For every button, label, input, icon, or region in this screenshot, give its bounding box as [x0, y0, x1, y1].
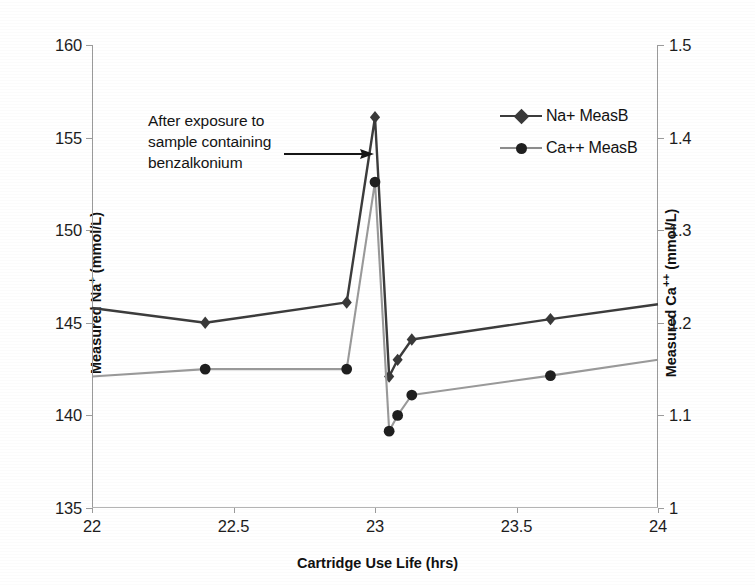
- y-axis-left-line: [92, 45, 93, 508]
- x-axis-title: Cartridge Use Life (hrs): [297, 555, 458, 571]
- y-tick-label-left: 155: [55, 128, 82, 147]
- x-tick: [234, 508, 235, 513]
- annotation-arrow-icon: [282, 144, 374, 164]
- circle-marker-icon: [516, 143, 527, 154]
- chart-figure: Measured Na+ (mmol/L) Measured Ca++ (mmo…: [0, 0, 755, 585]
- y-tick-label-right: 1.3: [669, 221, 691, 240]
- y-tick-label-left: 145: [55, 313, 82, 332]
- y-tick-right: [658, 323, 664, 324]
- legend: Na+ MeasB Ca++ MeasB: [500, 100, 675, 164]
- legend-label-ca: Ca++ MeasB: [546, 139, 637, 157]
- x-tick: [658, 508, 659, 513]
- y-tick-right: [658, 230, 664, 231]
- y-tick-label-right: 1.2: [669, 313, 691, 332]
- y-tick-label-right: 1.1: [669, 406, 691, 425]
- y-tick-label-left: 160: [55, 36, 82, 55]
- y-tick-left: [86, 45, 92, 46]
- y-tick-left: [86, 230, 92, 231]
- x-tick-label: 23.5: [501, 517, 532, 536]
- x-tick-label: 22: [83, 517, 101, 536]
- y-axis-right-title-superscript: ++: [660, 273, 672, 286]
- y-tick-right: [658, 415, 664, 416]
- x-tick: [375, 508, 376, 513]
- x-tick: [92, 508, 93, 513]
- x-tick-label: 24: [649, 517, 667, 536]
- y-tick-label-left: 135: [55, 499, 82, 518]
- y-tick-left: [86, 415, 92, 416]
- y-tick-left: [86, 323, 92, 324]
- annotation-line-1: After exposure to: [148, 110, 348, 131]
- legend-label-na: Na+ MeasB: [546, 107, 628, 125]
- legend-item-na[interactable]: Na+ MeasB: [500, 100, 675, 132]
- legend-item-ca[interactable]: Ca++ MeasB: [500, 132, 675, 164]
- y-tick-right: [658, 45, 664, 46]
- diamond-marker-icon: [513, 108, 529, 124]
- y-tick-label-right: 1.5: [669, 36, 691, 55]
- y-axis-right-title-post: (mmol/L): [663, 208, 679, 273]
- y-tick-label-left: 140: [55, 406, 82, 425]
- legend-swatch-na: [500, 109, 542, 123]
- x-tick-label: 23: [366, 517, 384, 536]
- y-tick-label-right: 1: [669, 499, 678, 518]
- y-tick-left: [86, 138, 92, 139]
- x-tick-label: 22.5: [218, 517, 249, 536]
- x-tick: [517, 508, 518, 513]
- y-tick-label-left: 150: [55, 221, 82, 240]
- legend-swatch-ca: [500, 141, 542, 155]
